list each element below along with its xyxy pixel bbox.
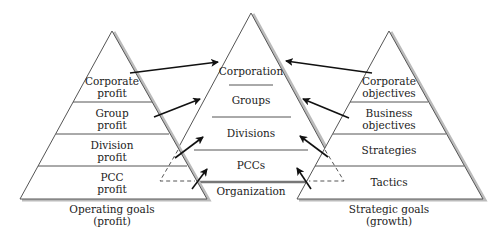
right-pyramid: Corporate objectives Business objectives…	[297, 31, 485, 227]
left-level-1-line1: Corporate	[85, 75, 139, 87]
arrow-group-profit-to-groups	[154, 99, 200, 117]
left-level-2-line2: profit	[97, 119, 127, 131]
left-level-3-line1: Division	[91, 139, 134, 151]
center-level-3: Divisions	[227, 127, 275, 139]
left-level-2-line1: Group	[95, 107, 128, 119]
left-level-3-line2: profit	[97, 151, 127, 163]
left-level-1-line2: profit	[97, 87, 127, 99]
left-level-4-line1: PCC	[100, 171, 123, 183]
right-level-3: Strategies	[362, 144, 417, 156]
right-level-2-line2: objectives	[362, 119, 416, 131]
center-caption: Organization	[216, 185, 285, 197]
center-level-1: Corporation	[219, 65, 284, 77]
right-caption-line2: (growth)	[366, 215, 412, 227]
left-pyramid: Corporate profit Group profit Division p…	[20, 31, 209, 227]
arrow-corporate-profit-to-corporation	[130, 62, 218, 73]
left-level-4-line2: profit	[97, 183, 127, 195]
right-caption-line1: Strategic goals	[349, 203, 429, 215]
right-level-1-line1: Corporate	[362, 75, 416, 87]
arrow-corporate-objectives-to-corporation	[286, 61, 372, 73]
center-level-4: PCCs	[237, 159, 266, 171]
right-level-4: Tactics	[370, 176, 407, 188]
left-caption-line1: Operating goals	[69, 203, 154, 215]
pyramid-alignment-diagram: Corporate profit Group profit Division p…	[0, 0, 497, 240]
right-level-1-line2: objectives	[362, 87, 416, 99]
right-level-2-line1: Business	[366, 107, 413, 119]
center-level-2: Groups	[232, 94, 271, 106]
left-caption-line2: (profit)	[93, 215, 130, 227]
